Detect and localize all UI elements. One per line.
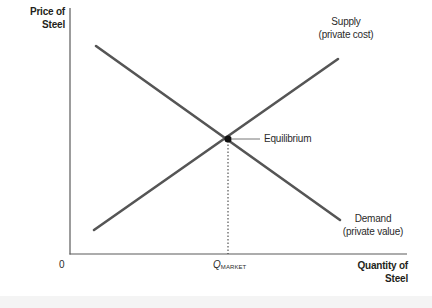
q-market-main: Q: [213, 259, 221, 270]
y-axis-title-line1: Price of: [18, 5, 65, 18]
x-axis-title-line2: Steel: [340, 272, 408, 285]
origin-label-text: 0: [59, 259, 65, 270]
y-axis-title-line2: Steel: [18, 18, 65, 31]
x-axis-title: Quantity of Steel: [340, 259, 408, 285]
demand-label: Demand (private value): [333, 212, 413, 238]
supply-label-line2: (private cost): [310, 28, 382, 41]
x-axis-title-line1: Quantity of: [340, 259, 408, 272]
supply-label: Supply (private cost): [310, 15, 382, 41]
supply-label-line1: Supply: [310, 15, 382, 28]
demand-label-line1: Demand: [333, 212, 413, 225]
demand-label-line2: (private value): [333, 225, 413, 238]
origin-label: 0: [59, 259, 65, 271]
equilibrium-point: [224, 135, 231, 142]
equilibrium-label-text: Equilibrium: [264, 133, 311, 144]
q-market-label: QMARKET: [213, 259, 246, 273]
equilibrium-label: Equilibrium: [264, 132, 311, 145]
q-market-subscript: MARKET: [221, 264, 247, 270]
y-axis-title: Price of Steel: [18, 5, 65, 31]
